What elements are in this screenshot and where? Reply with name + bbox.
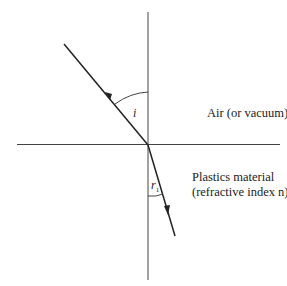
- plastics-material-label: Plastics material (refractive index n): [192, 170, 287, 200]
- incidence-angle-arc: [115, 92, 148, 104]
- incidence-angle-label: i: [133, 106, 136, 121]
- plastics-line-1: Plastics material: [192, 170, 287, 185]
- air-label: Air (or vacuum): [207, 106, 287, 121]
- refraction-angle-label: r1: [151, 178, 159, 194]
- plastics-line-2: (refractive index n): [192, 185, 287, 200]
- incident-arrow-icon: [105, 92, 112, 100]
- refraction-diagram: [0, 0, 287, 286]
